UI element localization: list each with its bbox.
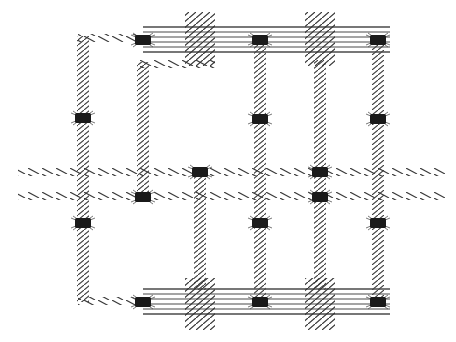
contact-pad bbox=[71, 216, 95, 230]
v-col-2 bbox=[137, 62, 149, 198]
contact-pad bbox=[248, 112, 272, 126]
bottom-cross-1 bbox=[185, 278, 215, 330]
top-cross-2 bbox=[305, 12, 335, 66]
bottom-cross-2 bbox=[305, 278, 335, 330]
v-col-4 bbox=[254, 40, 266, 302]
v-col-1 bbox=[77, 36, 89, 302]
contact-pad bbox=[71, 111, 95, 125]
contact-pad bbox=[366, 216, 390, 230]
contact-pad bbox=[366, 33, 390, 47]
contact-pad bbox=[366, 295, 390, 309]
contact-pad bbox=[366, 112, 390, 126]
contact-pad bbox=[248, 216, 272, 230]
wiring-diagram bbox=[0, 0, 456, 342]
contact-pad bbox=[248, 295, 272, 309]
v-col-6 bbox=[372, 40, 384, 302]
contact-pad bbox=[248, 33, 272, 47]
v-col-3 bbox=[194, 172, 206, 290]
top-cross-1 bbox=[185, 12, 215, 66]
